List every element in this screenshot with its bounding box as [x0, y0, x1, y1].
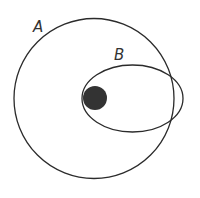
central-body — [83, 86, 107, 110]
orbit-b-label: B — [114, 46, 124, 64]
orbit-a-label: A — [32, 18, 43, 36]
orbit-diagram: A B — [0, 0, 200, 198]
